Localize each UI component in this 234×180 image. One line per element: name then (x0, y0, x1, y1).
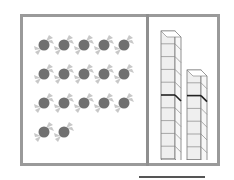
candy-icon (113, 63, 135, 85)
candy-icon (113, 34, 135, 56)
candy-icon (33, 63, 55, 85)
candy-icon (113, 92, 135, 114)
candy-icon (93, 63, 115, 85)
candy-icon (53, 63, 75, 85)
candy-icon (93, 34, 115, 56)
candy-icon (33, 34, 55, 56)
short-cube-rod (186, 64, 216, 160)
candy-icon (53, 34, 75, 56)
candy-icon (73, 92, 95, 114)
answer-line[interactable] (139, 176, 205, 178)
candy-icon (33, 121, 55, 143)
candy-icon (93, 92, 115, 114)
candy-icon (73, 63, 95, 85)
candy-icon (33, 92, 55, 114)
candy-icon (53, 121, 75, 143)
candy-icon (53, 92, 75, 114)
candy-icon (73, 34, 95, 56)
